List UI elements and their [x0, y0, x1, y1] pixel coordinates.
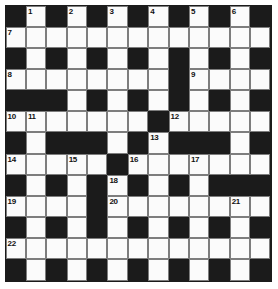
letter-cell[interactable]: [230, 90, 250, 111]
letter-cell[interactable]: [148, 154, 168, 175]
letter-cell[interactable]: [230, 111, 250, 132]
letter-cell[interactable]: [26, 196, 46, 217]
letter-cell[interactable]: [87, 154, 107, 175]
letter-cell[interactable]: 10: [6, 111, 26, 132]
letter-cell[interactable]: [148, 175, 168, 196]
letter-cell[interactable]: 18: [107, 175, 127, 196]
letter-cell[interactable]: [189, 111, 209, 132]
letter-cell[interactable]: [189, 48, 209, 69]
letter-cell[interactable]: [67, 48, 87, 69]
letter-cell[interactable]: 11: [26, 111, 46, 132]
letter-cell[interactable]: [67, 196, 87, 217]
letter-cell[interactable]: 1: [26, 6, 46, 27]
letter-cell[interactable]: [107, 259, 127, 280]
letter-cell[interactable]: [107, 69, 127, 90]
letter-cell[interactable]: 16: [128, 154, 148, 175]
letter-cell[interactable]: [209, 27, 229, 48]
letter-cell[interactable]: [148, 48, 168, 69]
letter-cell[interactable]: [209, 111, 229, 132]
letter-cell[interactable]: [46, 196, 66, 217]
letter-cell[interactable]: [26, 217, 46, 238]
letter-cell[interactable]: [26, 27, 46, 48]
letter-cell[interactable]: [87, 69, 107, 90]
letter-cell[interactable]: [189, 27, 209, 48]
letter-cell[interactable]: [107, 48, 127, 69]
letter-cell[interactable]: 20: [107, 196, 127, 217]
letter-cell[interactable]: [148, 259, 168, 280]
letter-cell[interactable]: [230, 69, 250, 90]
letter-cell[interactable]: [67, 217, 87, 238]
letter-cell[interactable]: 12: [169, 111, 189, 132]
letter-cell[interactable]: 9: [189, 69, 209, 90]
letter-cell[interactable]: [169, 27, 189, 48]
letter-cell[interactable]: [46, 69, 66, 90]
letter-cell[interactable]: 2: [67, 6, 87, 27]
letter-cell[interactable]: [209, 154, 229, 175]
letter-cell[interactable]: [26, 238, 46, 259]
letter-cell[interactable]: 17: [189, 154, 209, 175]
letter-cell[interactable]: [189, 217, 209, 238]
letter-cell[interactable]: [128, 27, 148, 48]
letter-cell[interactable]: [46, 238, 66, 259]
letter-cell[interactable]: 6: [230, 6, 250, 27]
letter-cell[interactable]: [67, 90, 87, 111]
letter-cell[interactable]: 15: [67, 154, 87, 175]
letter-cell[interactable]: [189, 90, 209, 111]
letter-cell[interactable]: 22: [6, 238, 26, 259]
letter-cell[interactable]: [230, 27, 250, 48]
letter-cell[interactable]: 14: [6, 154, 26, 175]
letter-cell[interactable]: 8: [6, 69, 26, 90]
letter-cell[interactable]: [67, 69, 87, 90]
letter-cell[interactable]: [148, 69, 168, 90]
letter-cell[interactable]: [46, 154, 66, 175]
letter-cell[interactable]: [169, 238, 189, 259]
letter-cell[interactable]: [169, 196, 189, 217]
letter-cell[interactable]: 4: [148, 6, 168, 27]
letter-cell[interactable]: [46, 27, 66, 48]
letter-cell[interactable]: [26, 48, 46, 69]
letter-cell[interactable]: [148, 217, 168, 238]
letter-cell[interactable]: 19: [6, 196, 26, 217]
letter-cell[interactable]: [250, 111, 270, 132]
letter-cell[interactable]: [250, 238, 270, 259]
letter-cell[interactable]: [46, 111, 66, 132]
letter-cell[interactable]: [250, 154, 270, 175]
crossword-grid[interactable]: 12345678910111213141516171819202122: [5, 5, 272, 282]
letter-cell[interactable]: [230, 48, 250, 69]
letter-cell[interactable]: [209, 196, 229, 217]
letter-cell[interactable]: [169, 154, 189, 175]
letter-cell[interactable]: [26, 132, 46, 153]
letter-cell[interactable]: [67, 27, 87, 48]
letter-cell[interactable]: [107, 27, 127, 48]
letter-cell[interactable]: [26, 259, 46, 280]
letter-cell[interactable]: [128, 111, 148, 132]
letter-cell[interactable]: [189, 196, 209, 217]
letter-cell[interactable]: [189, 238, 209, 259]
letter-cell[interactable]: [209, 69, 229, 90]
letter-cell[interactable]: [26, 154, 46, 175]
letter-cell[interactable]: [250, 27, 270, 48]
letter-cell[interactable]: [87, 238, 107, 259]
letter-cell[interactable]: [67, 259, 87, 280]
letter-cell[interactable]: [107, 90, 127, 111]
letter-cell[interactable]: [67, 175, 87, 196]
letter-cell[interactable]: 13: [148, 132, 168, 153]
letter-cell[interactable]: 3: [107, 6, 127, 27]
letter-cell[interactable]: 21: [230, 196, 250, 217]
letter-cell[interactable]: [230, 154, 250, 175]
letter-cell[interactable]: [26, 175, 46, 196]
letter-cell[interactable]: [230, 132, 250, 153]
letter-cell[interactable]: [67, 238, 87, 259]
letter-cell[interactable]: [148, 238, 168, 259]
letter-cell[interactable]: [107, 217, 127, 238]
letter-cell[interactable]: 5: [189, 6, 209, 27]
letter-cell[interactable]: [107, 132, 127, 153]
letter-cell[interactable]: [148, 27, 168, 48]
letter-cell[interactable]: [189, 259, 209, 280]
letter-cell[interactable]: [87, 111, 107, 132]
letter-cell[interactable]: [148, 196, 168, 217]
letter-cell[interactable]: [230, 217, 250, 238]
letter-cell[interactable]: [87, 27, 107, 48]
letter-cell[interactable]: [26, 69, 46, 90]
letter-cell[interactable]: [230, 259, 250, 280]
